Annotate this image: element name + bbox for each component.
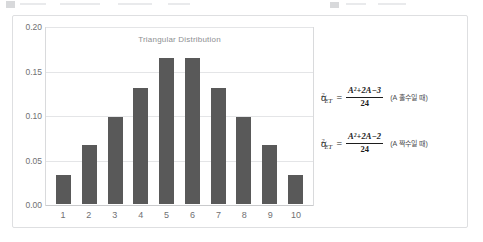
bar-slot <box>128 29 154 204</box>
artifact-mark <box>20 3 46 5</box>
sigma-subscript: ET <box>324 97 332 104</box>
x-axis-line <box>46 205 313 206</box>
bar-slot <box>51 29 77 204</box>
formula-block: σ2ET = A²+2A−3 24 (A 홀수일 때) σ2ET = A²+2A… <box>321 80 467 160</box>
bar-slot <box>257 29 283 204</box>
fraction-numerator: A²+2A−3 <box>346 86 383 96</box>
artifact-mark <box>330 2 339 8</box>
y-axis-ticks: 0.20 0.15 0.10 0.05 0.00 <box>13 27 42 206</box>
bar <box>185 58 200 204</box>
x-axis-ticks: 1 2 3 4 5 6 7 8 9 10 <box>46 208 313 224</box>
bar <box>262 145 277 204</box>
chart-title: Triangular Distribution <box>45 35 314 44</box>
bar <box>56 175 71 204</box>
x-tick-label: 3 <box>102 208 128 224</box>
fraction-numerator: A²+2A−2 <box>346 132 383 142</box>
plot-area <box>45 27 314 206</box>
gridline <box>46 27 313 28</box>
bar <box>159 58 174 204</box>
fraction-denominator: 24 <box>360 144 369 154</box>
artifact-mark <box>118 3 152 5</box>
bar-slot <box>205 29 231 204</box>
x-tick-label: 6 <box>180 208 206 224</box>
bar-slot <box>77 29 103 204</box>
content-card: 0.20 0.15 0.10 0.05 0.00 <box>12 15 468 228</box>
fraction-denominator: 24 <box>360 98 369 108</box>
bar <box>288 175 303 204</box>
formula-even: σ2ET = A²+2A−2 24 (A 짝수일 때) <box>321 126 467 160</box>
artifact-mark <box>378 3 406 5</box>
bar-series <box>47 29 312 204</box>
x-tick-label: 4 <box>128 208 154 224</box>
x-tick-label: 10 <box>283 208 309 224</box>
x-tick-label: 8 <box>231 208 257 224</box>
top-scan-artifacts <box>0 0 483 12</box>
equals-sign: = <box>336 92 342 103</box>
formula-odd: σ2ET = A²+2A−3 24 (A 홀수일 때) <box>321 80 467 114</box>
bar <box>133 88 148 204</box>
fraction: A²+2A−3 24 <box>346 86 383 107</box>
equals-sign: = <box>336 138 342 149</box>
x-tick-label: 2 <box>76 208 102 224</box>
bar-slot <box>282 29 308 204</box>
variance-symbol: σ2ET <box>321 91 332 104</box>
bar-slot <box>231 29 257 204</box>
y-tick-label: 0.00 <box>14 200 42 210</box>
y-tick-label: 0.10 <box>14 111 42 121</box>
fraction: A²+2A−2 24 <box>346 132 383 153</box>
bar-chart: 0.20 0.15 0.10 0.05 0.00 <box>13 16 318 229</box>
x-tick-label: 1 <box>50 208 76 224</box>
y-tick-label: 0.05 <box>14 156 42 166</box>
x-tick-label: 5 <box>154 208 180 224</box>
variance-symbol: σ2ET <box>321 137 332 150</box>
formula-condition: (A 홀수일 때) <box>390 92 428 102</box>
artifact-mark <box>6 1 15 8</box>
bar-slot <box>154 29 180 204</box>
bar <box>82 145 97 204</box>
artifact-mark <box>60 3 100 5</box>
x-tick-label: 9 <box>257 208 283 224</box>
x-tick-label: 7 <box>205 208 231 224</box>
artifact-mark <box>168 3 190 5</box>
bar-slot <box>180 29 206 204</box>
y-tick-label: 0.15 <box>14 67 42 77</box>
formula-condition: (A 짝수일 때) <box>390 138 428 148</box>
bar <box>236 117 251 205</box>
sigma-subscript: ET <box>324 143 332 150</box>
artifact-mark <box>346 3 366 5</box>
bar <box>211 88 226 204</box>
y-tick-label: 0.20 <box>14 22 42 32</box>
bar <box>108 117 123 205</box>
bar-slot <box>102 29 128 204</box>
